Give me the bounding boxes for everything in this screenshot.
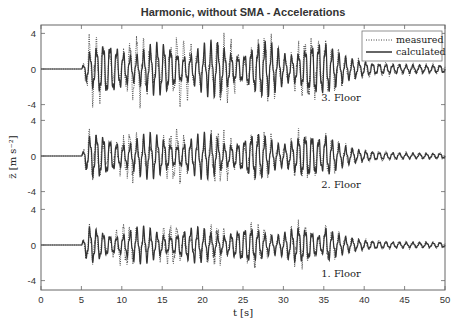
x-tick-label: 30 bbox=[278, 294, 289, 305]
x-tick-label: 5 bbox=[79, 294, 84, 305]
x-tick-label: 45 bbox=[399, 294, 410, 305]
x-axis-ticks: 05101520253035404550 bbox=[38, 25, 450, 305]
y-tick-label: 0 bbox=[31, 240, 36, 251]
legend: measured calculated bbox=[362, 31, 446, 61]
y-tick-label: 4 bbox=[31, 115, 36, 126]
y-tick-label: 4 bbox=[31, 28, 36, 39]
y-tick-label: -4 bbox=[28, 275, 36, 286]
floor-label: 3. Floor bbox=[321, 92, 361, 103]
y-axis-label: z̈ [m s⁻²] bbox=[7, 135, 18, 178]
x-tick-label: 35 bbox=[319, 294, 330, 305]
x-tick-label: 25 bbox=[238, 294, 249, 305]
signal-traces bbox=[41, 33, 445, 270]
chart-title: Harmonic, without SMA - Accelerations bbox=[141, 6, 346, 18]
y-tick-label: 0 bbox=[31, 151, 36, 162]
x-tick-label: 20 bbox=[197, 294, 208, 305]
x-tick-label: 40 bbox=[359, 294, 370, 305]
legend-measured-label: measured bbox=[396, 34, 444, 45]
floor-label: 1. Floor bbox=[321, 268, 361, 279]
y-tick-label: 0 bbox=[31, 64, 36, 75]
calculated-trace bbox=[41, 226, 445, 265]
x-tick-label: 10 bbox=[117, 294, 128, 305]
chart-figure: Harmonic, without SMA - Accelerations 05… bbox=[0, 0, 463, 332]
y-tick-label: -4 bbox=[28, 186, 36, 197]
floor-label: 2. Floor bbox=[321, 179, 361, 190]
legend-calculated-label: calculated bbox=[396, 46, 446, 57]
calculated-trace bbox=[41, 132, 445, 180]
x-tick-label: 15 bbox=[157, 294, 168, 305]
x-axis-label: t [s] bbox=[233, 307, 253, 318]
x-tick-label: 0 bbox=[38, 294, 43, 305]
y-tick-label: 4 bbox=[31, 204, 36, 215]
y-tick-label: -4 bbox=[28, 99, 36, 110]
x-tick-label: 50 bbox=[440, 294, 451, 305]
